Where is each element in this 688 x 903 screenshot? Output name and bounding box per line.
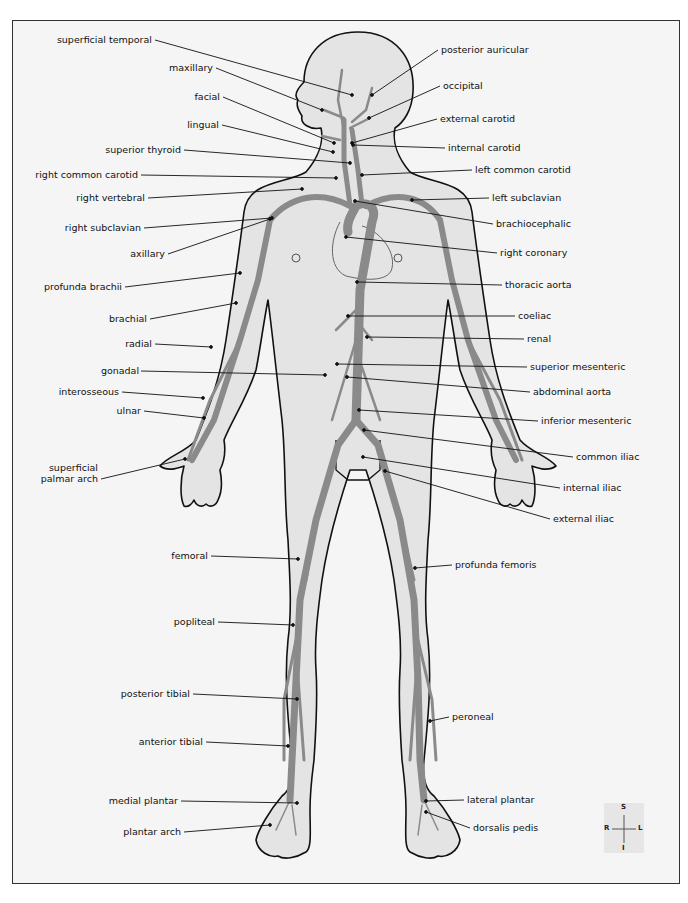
leader-dot-brachiocephalic xyxy=(354,200,357,203)
leader-dot-medial-plantar xyxy=(296,802,299,805)
leader-dot-radial xyxy=(210,346,213,349)
leader-dot-superficial-palmar-arch xyxy=(184,458,187,461)
leader-dot-thoracic-aorta xyxy=(356,281,359,284)
leader-dot-gonadal xyxy=(324,374,327,377)
leader-dot-ulnar xyxy=(203,417,206,420)
leader-dot-internal-carotid xyxy=(352,144,355,147)
label-superficial-temporal: superficial temporal xyxy=(46,34,152,45)
leader-dot-facial xyxy=(333,142,336,145)
label-internal-iliac: internal iliac xyxy=(563,482,621,493)
label-lingual: lingual xyxy=(182,119,219,130)
leader-anterior-tibial xyxy=(206,742,288,746)
label-gonadal: gonadal xyxy=(101,365,138,376)
leader-dot-right-vertebral xyxy=(301,188,304,191)
label-internal-carotid: internal carotid xyxy=(448,142,520,153)
leader-dot-anterior-tibial xyxy=(287,745,290,748)
label-abdominal-aorta: abdominal aorta xyxy=(533,386,611,397)
leader-dot-right-common-carotid xyxy=(335,177,338,180)
leader-plantar-arch xyxy=(184,825,270,832)
label-dorsalis-pedis: dorsalis pedis xyxy=(473,822,538,833)
leader-popliteal xyxy=(218,622,293,625)
leader-dot-peroneal xyxy=(429,720,432,723)
label-renal: renal xyxy=(527,333,551,344)
label-interosseous: interosseous xyxy=(55,386,119,397)
label-profunda-brachii: profunda brachii xyxy=(37,281,122,292)
leader-dot-axillary xyxy=(269,218,272,221)
compass-left: L xyxy=(638,824,642,832)
label-left-common-carotid: left common carotid xyxy=(475,164,571,175)
leader-dot-external-iliac xyxy=(384,470,387,473)
leader-dot-plantar-arch xyxy=(269,824,272,827)
label-external-carotid: external carotid xyxy=(440,113,515,124)
label-external-iliac: external iliac xyxy=(553,513,614,524)
label-left-subclavian: left subclavian xyxy=(492,192,561,203)
label-posterior-auricular: posterior auricular xyxy=(441,44,529,55)
leader-dot-left-common-carotid xyxy=(361,174,364,177)
label-right-coronary: right coronary xyxy=(500,247,567,258)
label-lateral-plantar: lateral plantar xyxy=(467,794,534,805)
leader-dot-occipital xyxy=(368,117,371,120)
label-superior-mesenteric: superior mesenteric xyxy=(530,361,625,372)
leader-dot-posterior-tibial xyxy=(296,698,299,701)
leader-dot-internal-iliac xyxy=(362,456,365,459)
label-superior-thyroid: superior thyroid xyxy=(96,144,181,155)
leader-dot-brachial xyxy=(235,302,238,305)
label-superficial-palmar-arch: superficialpalmar arch xyxy=(40,462,98,484)
label-femoral: femoral xyxy=(171,550,208,561)
label-plantar-arch: plantar arch xyxy=(117,826,181,837)
label-occipital: occipital xyxy=(443,80,483,91)
leader-dot-coeliac xyxy=(347,315,350,318)
leader-dot-right-coronary xyxy=(345,236,348,239)
leader-dot-maxillary xyxy=(321,109,324,112)
leader-radial xyxy=(155,344,211,347)
leader-dot-posterior-auricular xyxy=(371,94,374,97)
leader-dot-renal xyxy=(366,336,369,339)
leader-dot-left-subclavian xyxy=(411,199,414,202)
label-inferior-mesenteric: inferior mesenteric xyxy=(541,415,631,426)
label-facial: facial xyxy=(188,91,220,102)
leader-dot-popliteal xyxy=(292,624,295,627)
leader-dot-abdominal-aorta xyxy=(346,376,349,379)
leader-dot-femoral xyxy=(297,558,300,561)
label-right-common-carotid: right common carotid xyxy=(32,169,138,180)
label-common-iliac: common iliac xyxy=(576,451,639,462)
leader-dot-lateral-plantar xyxy=(425,800,428,803)
label-peroneal: peroneal xyxy=(452,711,494,722)
compass-inferior: I xyxy=(622,844,625,852)
label-right-vertebral: right vertebral xyxy=(66,192,146,203)
label-maxillary: maxillary xyxy=(165,62,213,73)
leader-dot-inferior-mesenteric xyxy=(358,409,361,412)
leader-dot-superior-thyroid xyxy=(349,162,352,165)
label-ulnar: ulnar xyxy=(115,405,142,416)
compass-superior: S xyxy=(621,803,626,811)
leader-interosseous xyxy=(122,392,203,398)
leader-dot-superior-mesenteric xyxy=(336,363,339,366)
compass-right: R xyxy=(604,824,609,832)
label-right-subclavian: right subclavian xyxy=(56,222,141,233)
leader-dot-profunda-femoris xyxy=(414,567,417,570)
label-medial-plantar: medial plantar xyxy=(104,795,178,806)
label-brachiocephalic: brachiocephalic xyxy=(496,218,571,229)
leader-posterior-tibial xyxy=(193,694,297,699)
leader-brachial xyxy=(150,303,236,319)
leader-dot-common-iliac xyxy=(363,429,366,432)
leader-ulnar xyxy=(144,411,204,418)
label-anterior-tibial: anterior tibial xyxy=(124,736,204,747)
label-posterior-tibial: posterior tibial xyxy=(105,688,190,699)
orientation-compass: S I R L xyxy=(604,803,644,853)
leader-dot-lingual xyxy=(332,151,335,154)
leader-dot-profunda-brachii xyxy=(239,272,242,275)
label-axillary: axillary xyxy=(123,248,165,259)
leader-dot-dorsalis-pedis xyxy=(425,811,428,814)
label-brachial: brachial xyxy=(105,313,147,324)
label-radial: radial xyxy=(120,338,152,349)
label-popliteal: popliteal xyxy=(167,616,215,627)
label-profunda-femoris: profunda femoris xyxy=(455,559,537,570)
leader-dot-superficial-temporal xyxy=(351,94,354,97)
label-coeliac: coeliac xyxy=(518,310,551,321)
leader-dot-interosseous xyxy=(202,397,205,400)
leader-profunda-brachii xyxy=(125,273,240,287)
leader-femoral xyxy=(211,556,298,559)
label-thoracic-aorta: thoracic aorta xyxy=(505,279,571,290)
